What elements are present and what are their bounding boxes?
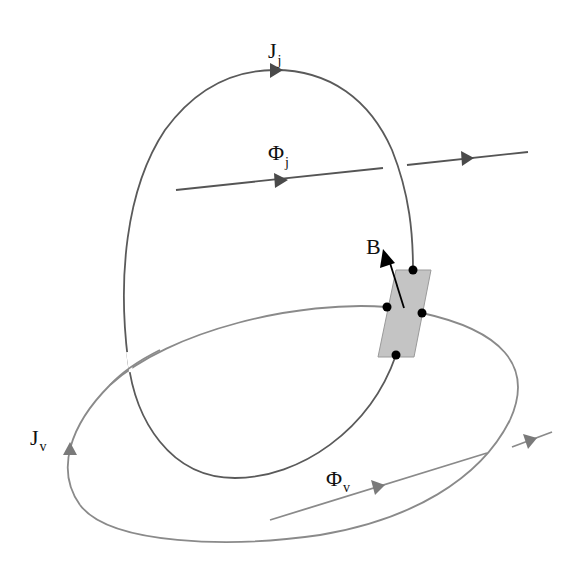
vertical-loop-arc: [124, 70, 413, 478]
flux-v-arrow-icon: [371, 480, 385, 495]
flux-v-label: Φv: [326, 466, 350, 495]
horizontal-loop: [63, 306, 518, 542]
vertical-loop: [124, 63, 413, 478]
loop-diagram: Jj Φj B Jv Φv: [0, 0, 580, 565]
current-v-label: Jv: [30, 425, 47, 454]
current-v-arrow-icon: [63, 442, 77, 455]
b-arrow-icon: [380, 249, 395, 268]
junction-dot-left: [383, 303, 392, 312]
flux-j-line: [176, 151, 528, 190]
flux-j-outer-arrow-icon: [461, 151, 474, 166]
horizontal-loop-right-arc: [422, 313, 518, 420]
flux-j-arrow-icon: [274, 173, 288, 188]
junction: [378, 266, 431, 360]
field-b-label: B: [366, 234, 381, 259]
junction-dot-right: [418, 309, 427, 318]
junction-dot-bottom: [392, 351, 401, 360]
junction-dot-top: [409, 266, 418, 275]
flux-v-line: [270, 432, 552, 520]
flux-j-label: Φj: [268, 140, 289, 170]
horizontal-loop-bottom-arc: [80, 420, 510, 542]
